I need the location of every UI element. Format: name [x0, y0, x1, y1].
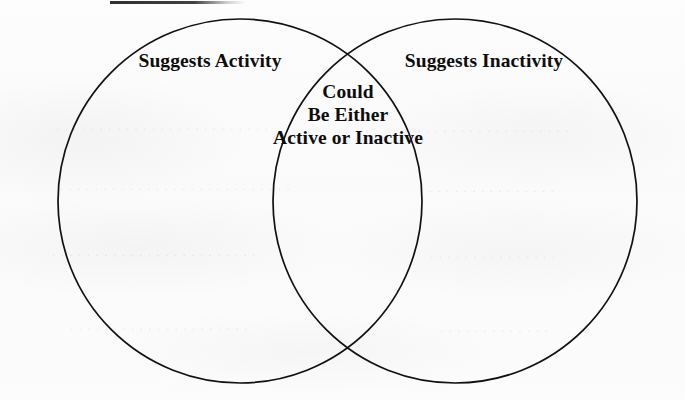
intersection-line-3: Active or Inactive: [238, 126, 458, 149]
right-circle-label: Suggests Inactivity: [368, 50, 600, 72]
intersection-line-2: Be Either: [238, 103, 458, 126]
intersection-label: Could Be Either Active or Inactive: [238, 80, 458, 149]
intersection-line-1: Could: [238, 80, 458, 103]
venn-diagram-page: . . . . . . . . . . . . . . . . . . . . …: [0, 0, 685, 400]
left-circle-label: Suggests Activity: [0, 50, 420, 72]
left-circle: [58, 19, 422, 383]
right-circle: [273, 19, 637, 383]
